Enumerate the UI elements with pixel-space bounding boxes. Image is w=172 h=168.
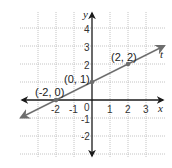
y-tick: 2 (84, 60, 90, 71)
y-tick: 4 (84, 24, 90, 35)
point-neg2-0 (54, 98, 59, 103)
y-tick: -1 (81, 114, 90, 125)
x-tick: 2 (125, 104, 131, 115)
y-tick: 3 (84, 42, 90, 53)
x-tick: 3 (143, 104, 149, 115)
y-tick: -2 (81, 131, 90, 142)
line-label: t (160, 48, 164, 60)
point-label: (2, 2) (111, 51, 137, 63)
y-axis-label: y (82, 8, 88, 20)
x-tick: 1 (107, 104, 113, 115)
x-tick: -2 (51, 104, 60, 115)
x-tick: -1 (69, 104, 78, 115)
x-axis-label: x (157, 102, 163, 114)
coordinate-plane: (-2, 0) (0, 1) (2, 2) y x t -2 -1 0 1 2 … (0, 0, 172, 168)
point-label: (-2, 0) (35, 86, 64, 98)
origin-tick: 0 (84, 102, 90, 113)
point-0-1 (90, 80, 95, 85)
point-label: (0, 1) (64, 73, 90, 85)
